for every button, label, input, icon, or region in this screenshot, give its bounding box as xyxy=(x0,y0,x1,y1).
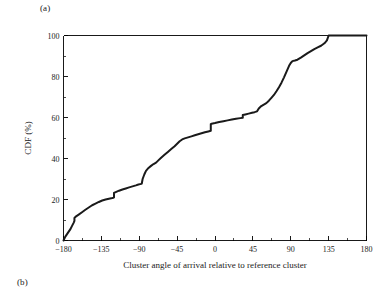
y-tick-label: 20 xyxy=(52,196,60,205)
x-tick-label: 135 xyxy=(323,245,335,254)
x-tick-label: 45 xyxy=(249,245,257,254)
y-tick-label: 40 xyxy=(52,155,60,164)
x-axis-title: Cluster angle of arrival relative to ref… xyxy=(123,260,307,270)
x-tick-label: −135 xyxy=(93,245,110,254)
x-tick-label: 90 xyxy=(287,245,295,254)
x-tick-label: 180 xyxy=(361,245,373,254)
cdf-series-line xyxy=(64,36,367,241)
figure-panel-a: (a) −180−135−90−450459013518002040608010… xyxy=(0,0,386,302)
chart-tick-labels: −180−135−90−4504590135180020406080100 xyxy=(48,32,373,254)
y-tick-label: 80 xyxy=(52,73,60,82)
y-axis-title: CDF (%) xyxy=(23,121,33,154)
cdf-chart: −180−135−90−4504590135180020406080100 Cl… xyxy=(0,0,386,302)
y-tick-label: 60 xyxy=(52,114,60,123)
x-tick-label: −180 xyxy=(55,245,72,254)
y-tick-label: 0 xyxy=(56,237,60,246)
x-tick-label: −90 xyxy=(133,245,146,254)
chart-ticks xyxy=(64,36,367,241)
y-tick-label: 100 xyxy=(48,32,60,41)
x-tick-label: 0 xyxy=(213,245,217,254)
chart-axes xyxy=(64,36,367,241)
panel-label-b: (b) xyxy=(17,277,28,287)
plot-frame xyxy=(64,36,367,241)
chart-series-group xyxy=(64,36,367,241)
x-tick-label: −45 xyxy=(171,245,184,254)
